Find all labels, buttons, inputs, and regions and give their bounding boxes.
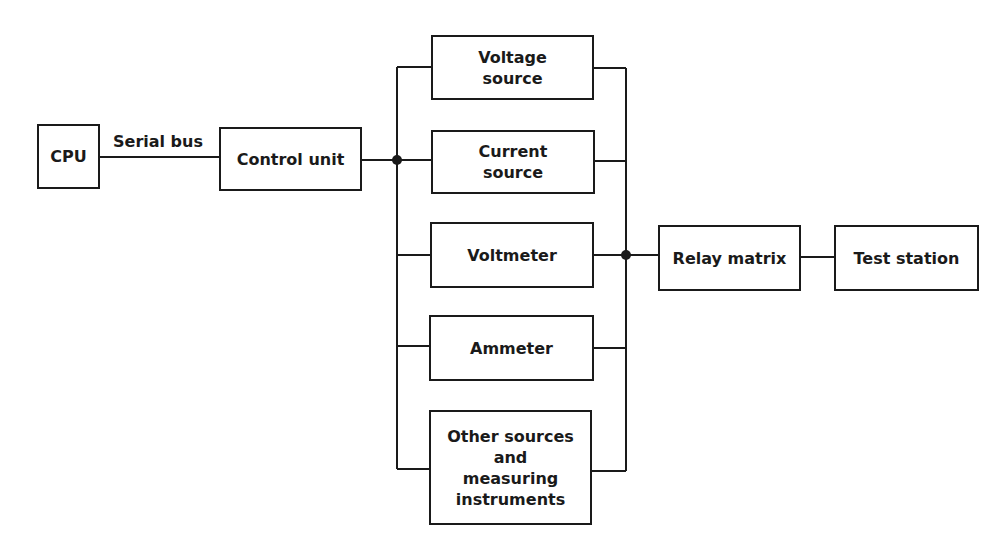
ammeter-block: Ammeter (429, 315, 594, 381)
test-station-block: Test station (834, 225, 979, 291)
serial-bus-label: Serial bus (113, 132, 203, 151)
relay-matrix-block: Relay matrix (658, 225, 801, 291)
cpu-block: CPU (37, 124, 100, 189)
control-unit-block: Control unit (219, 127, 362, 191)
voltmeter-block: Voltmeter (430, 222, 594, 288)
other-instruments-block: Other sources and measuring instruments (429, 410, 592, 525)
junction-dot-left (392, 155, 402, 165)
voltage-source-block: Voltage source (431, 35, 594, 100)
block-diagram: Serial bus CPU Control unit Voltage sour… (0, 0, 1004, 556)
current-source-block: Current source (431, 130, 595, 194)
junction-dot-right (621, 250, 631, 260)
